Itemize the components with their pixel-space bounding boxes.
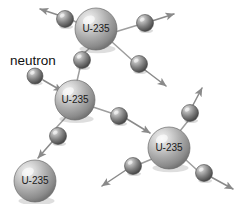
link-top-to-topright-neutron xyxy=(115,25,138,32)
u235-bottom-left: U-235 xyxy=(14,160,56,204)
neutron-incoming xyxy=(27,68,43,85)
diagram-canvas: U-235U-235U-235U-235 neutron xyxy=(0,0,241,204)
link-mid-to-rightneutron xyxy=(93,107,111,113)
fission-chain-reaction-diagram: U-235U-235U-235U-235 neutron xyxy=(0,0,241,204)
arrow-escape-right-lower-left xyxy=(102,170,126,186)
neutron-caption-label: neutron xyxy=(10,53,56,68)
arrow-escape-top-right xyxy=(152,14,174,21)
neutron-right-upper xyxy=(182,105,199,124)
arrow-escape-lower-right xyxy=(145,70,166,86)
neutron-top-left xyxy=(57,11,74,30)
u235-top: U-235 xyxy=(75,8,117,53)
neutron-top-lower-right xyxy=(131,56,148,75)
arrow-mid-to-right-atom xyxy=(127,119,150,133)
u235-right: U-235 xyxy=(148,127,190,172)
uranium-atoms-group: U-235U-235U-235U-235 xyxy=(14,8,190,204)
caption-group: neutron xyxy=(10,53,56,68)
u235-middle: U-235 xyxy=(55,80,95,123)
neutron-mid-to-bottom xyxy=(50,128,67,147)
arrow-mid-to-bottom-atom xyxy=(38,142,52,158)
neutron-right-lower-right xyxy=(196,165,213,184)
link-midneutron-to-mid xyxy=(77,68,80,81)
arrow-escape-top-left xyxy=(40,9,58,15)
neutron-top-right xyxy=(137,15,154,34)
neutron-mid-to-right xyxy=(111,108,128,127)
arrow-escape-right-lower-right xyxy=(211,177,233,189)
link-top-to-lowerright-neutron xyxy=(112,42,132,60)
arrow-escape-right-upper xyxy=(193,88,202,105)
neutron-right-lower-left xyxy=(125,158,142,177)
neutron-mid-to-top xyxy=(74,52,91,71)
link-right-to-lowerleftneutron xyxy=(140,159,152,164)
